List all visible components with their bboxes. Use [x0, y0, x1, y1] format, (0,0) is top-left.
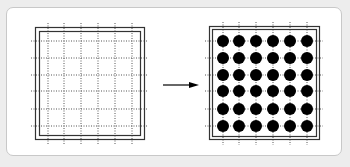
grid-dot: [233, 85, 245, 97]
grid-dot: [267, 120, 279, 132]
grid-dot: [250, 52, 262, 64]
grid-dot: [250, 120, 262, 132]
inner-frame: [40, 32, 141, 136]
grid-dot: [250, 85, 262, 97]
grid-dot: [233, 69, 245, 81]
grid-dot: [267, 85, 279, 97]
grid-dot: [217, 103, 229, 115]
grid-dot: [301, 85, 313, 97]
grid-dot: [301, 120, 313, 132]
grid-dot: [233, 35, 245, 47]
grid-dot: [301, 52, 313, 64]
grid-dot: [250, 69, 262, 81]
arrow-head-icon: [189, 82, 199, 88]
diagram-canvas: [0, 0, 350, 167]
grid-dot: [301, 35, 313, 47]
grid-dot: [250, 103, 262, 115]
grid-dot: [217, 69, 229, 81]
grid-dot: [301, 69, 313, 81]
empty-grid: [31, 23, 148, 145]
grid-dot: [284, 85, 296, 97]
grid-dot: [233, 120, 245, 132]
grid-dot: [233, 103, 245, 115]
grid-dot: [267, 69, 279, 81]
grid-dot: [267, 35, 279, 47]
outer-frame: [36, 28, 145, 140]
grid-dot: [301, 103, 313, 115]
filled-dot-grid: [205, 22, 323, 145]
grid-dot: [284, 103, 296, 115]
grid-dot: [284, 52, 296, 64]
grid-dot: [250, 35, 262, 47]
grid-dot: [267, 103, 279, 115]
grid-dot: [217, 35, 229, 47]
grid-dot: [284, 35, 296, 47]
grid-dot: [233, 52, 245, 64]
grid-dot: [284, 69, 296, 81]
grid-dot: [284, 120, 296, 132]
grid-dot: [217, 120, 229, 132]
transform-arrow: [163, 82, 199, 88]
inner-frame: [213, 30, 317, 137]
grid-dot: [217, 52, 229, 64]
grid-dot: [217, 85, 229, 97]
grid-dot: [267, 52, 279, 64]
